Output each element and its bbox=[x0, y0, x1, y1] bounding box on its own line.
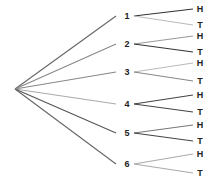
edge-4-to-T bbox=[134, 104, 193, 112]
edge-root-to-4 bbox=[15, 89, 116, 104]
leaf-label-6-T: T bbox=[197, 169, 203, 178]
edge-5-to-T bbox=[134, 133, 193, 141]
node-label-3: 3 bbox=[124, 68, 129, 77]
edge-root-to-2 bbox=[15, 44, 116, 89]
leaf-label-5-T: T bbox=[197, 137, 203, 146]
edge-1-to-H bbox=[134, 9, 193, 16]
leaf-label-3-T: T bbox=[197, 77, 203, 86]
edge-5-to-H bbox=[134, 125, 193, 133]
edge-root-to-3 bbox=[15, 72, 116, 89]
leaf-label-5-H: H bbox=[197, 121, 204, 130]
edge-1-to-T bbox=[134, 16, 193, 25]
edge-2-to-T bbox=[134, 44, 193, 52]
node-label-4: 4 bbox=[124, 100, 129, 109]
edge-4-to-H bbox=[134, 95, 193, 104]
node-label-6: 6 bbox=[124, 160, 129, 169]
leaf-label-4-T: T bbox=[197, 108, 203, 117]
edge-6-to-H bbox=[134, 154, 193, 164]
edge-6-to-T bbox=[134, 164, 193, 173]
node-label-5: 5 bbox=[124, 129, 129, 138]
leaf-label-2-H: H bbox=[197, 32, 204, 41]
leaf-label-4-H: H bbox=[197, 91, 204, 100]
node-label-2: 2 bbox=[124, 40, 129, 49]
leaf-label-2-T: T bbox=[197, 48, 203, 57]
leaf-label-1-T: T bbox=[197, 21, 203, 30]
node-label-1: 1 bbox=[124, 12, 129, 21]
tree-diagram bbox=[0, 0, 212, 181]
edge-3-to-T bbox=[134, 72, 193, 81]
edge-root-to-1 bbox=[15, 16, 116, 89]
edge-3-to-H bbox=[134, 63, 193, 72]
leaf-label-3-H: H bbox=[197, 59, 204, 68]
leaf-label-1-H: H bbox=[197, 5, 204, 14]
leaf-label-6-H: H bbox=[197, 150, 204, 159]
edge-2-to-H bbox=[134, 36, 193, 44]
